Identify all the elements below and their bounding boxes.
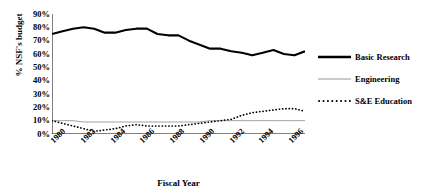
y-tick-label: 0% (16, 130, 50, 139)
y-tick-label: 60% (16, 50, 50, 59)
legend-item-engineering: Engineering (318, 68, 437, 90)
series-line-basic-research (52, 27, 305, 55)
y-tick-label: 90% (16, 10, 50, 19)
series-line-engineering (52, 121, 305, 122)
y-tick-label: 20% (16, 103, 50, 112)
x-axis-tick-labels: 198019821984198619881990199219941996 (52, 136, 308, 176)
y-tick-label: 30% (16, 90, 50, 99)
chart-figure: % NSF's budget 90%80%70%60%50%40%30%20%1… (0, 0, 437, 196)
legend-swatch-solid-thick-icon (318, 52, 351, 62)
y-axis-tick-labels: 90%80%70%60%50%40%30%20%10%0% (14, 0, 50, 196)
legend-label-basic-research: Basic Research (355, 52, 410, 62)
legend-label-engineering: Engineering (355, 74, 399, 84)
plot-area (52, 14, 305, 134)
legend-swatch-dotted-icon (318, 96, 351, 106)
chart-legend: Basic Research Engineering S&E Education (318, 46, 437, 112)
legend-item-se-education: S&E Education (318, 90, 437, 112)
y-tick-label: 40% (16, 76, 50, 85)
y-tick-label: 70% (16, 36, 50, 45)
axis-lines (52, 14, 305, 134)
legend-item-basic-research: Basic Research (318, 46, 437, 68)
y-tick-label: 50% (16, 63, 50, 72)
plot-svg (52, 14, 305, 134)
legend-swatch-solid-thin-icon (318, 74, 351, 84)
legend-label-se-education: S&E Education (355, 96, 412, 106)
y-tick-label: 80% (16, 23, 50, 32)
x-axis-title: Fiscal Year (52, 178, 305, 188)
y-tick-label: 10% (16, 116, 50, 125)
